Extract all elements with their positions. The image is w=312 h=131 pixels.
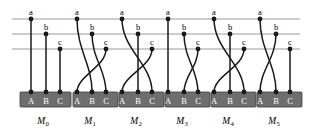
output-node-B-module-4 bbox=[228, 90, 233, 95]
output-label-B-module-4: B bbox=[227, 96, 233, 106]
input-label-a-module-4: a bbox=[212, 7, 216, 17]
module-caption-subscript-1: 1 bbox=[92, 120, 95, 127]
input-label-c-module-4: c bbox=[242, 37, 246, 47]
input-node-b-module-3 bbox=[182, 32, 187, 37]
input-node-a-module-2 bbox=[120, 17, 125, 22]
output-bar-4 bbox=[211, 92, 256, 107]
input-node-b-module-0 bbox=[44, 32, 49, 37]
output-label-B-module-2: B bbox=[135, 96, 141, 106]
input-node-a-module-5 bbox=[258, 17, 263, 22]
input-node-a-module-1 bbox=[75, 17, 80, 22]
output-label-C-module-3: C bbox=[195, 96, 201, 106]
module-caption-subscript-3: 3 bbox=[184, 120, 188, 127]
output-label-B-module-1: B bbox=[89, 96, 95, 106]
module-caption-1: M1 bbox=[83, 116, 96, 127]
module-caption-0: M0 bbox=[36, 116, 49, 127]
output-node-A-module-5 bbox=[258, 90, 263, 95]
output-node-A-module-1 bbox=[75, 90, 80, 95]
output-node-C-module-1 bbox=[104, 90, 109, 95]
input-node-b-module-5 bbox=[274, 32, 279, 37]
output-bar-3 bbox=[165, 92, 210, 107]
input-label-c-module-0: c bbox=[58, 37, 62, 47]
wire-group bbox=[31, 19, 290, 92]
output-label-A-module-3: A bbox=[165, 96, 172, 106]
module-caption-subscript-0: 0 bbox=[45, 120, 49, 127]
output-node-C-module-0 bbox=[58, 90, 63, 95]
input-node-a-module-4 bbox=[212, 17, 217, 22]
output-label-C-module-1: C bbox=[103, 96, 109, 106]
output-label-C-module-0: C bbox=[57, 96, 63, 106]
terminal-node-group bbox=[29, 17, 293, 95]
output-node-A-module-3 bbox=[166, 90, 171, 95]
input-label-a-module-5: a bbox=[258, 7, 262, 17]
output-node-A-module-0 bbox=[29, 90, 34, 95]
module-caption-2: M2 bbox=[129, 116, 142, 127]
input-label-c-module-1: c bbox=[104, 37, 108, 47]
wire-b-to-A-module-5 bbox=[260, 34, 276, 92]
output-label-A-module-1: A bbox=[74, 96, 81, 106]
output-node-B-module-5 bbox=[274, 90, 279, 95]
input-label-c-module-2: c bbox=[150, 37, 154, 47]
input-label-a-module-1: a bbox=[75, 7, 79, 17]
input-node-c-module-1 bbox=[104, 47, 109, 52]
output-node-A-module-2 bbox=[120, 90, 125, 95]
output-label-A-module-4: A bbox=[211, 96, 218, 106]
output-label-B-module-5: B bbox=[273, 96, 279, 106]
output-label-C-module-5: C bbox=[287, 96, 293, 106]
module-label-group: M0M1M2M3M4M5 bbox=[36, 116, 280, 127]
output-label-B-module-0: B bbox=[43, 96, 49, 106]
output-node-C-module-5 bbox=[288, 90, 293, 95]
input-label-group: abcabcabcabcabcabc bbox=[29, 7, 292, 47]
output-node-B-module-2 bbox=[136, 90, 141, 95]
output-node-C-module-4 bbox=[242, 90, 247, 95]
permutation-modules-figure: abcabcabcabcabcabc ABCABCABCABCABCABC M0… bbox=[0, 0, 312, 131]
output-label-C-module-2: C bbox=[149, 96, 155, 106]
input-node-c-module-3 bbox=[196, 47, 201, 52]
output-bar-2 bbox=[119, 92, 164, 107]
input-label-b-module-3: b bbox=[182, 22, 186, 32]
module-caption-3: M3 bbox=[175, 116, 188, 127]
module-caption-4: M4 bbox=[221, 116, 234, 127]
output-label-A-module-5: A bbox=[257, 96, 264, 106]
output-node-B-module-0 bbox=[44, 90, 49, 95]
input-label-a-module-2: a bbox=[120, 7, 124, 17]
input-label-b-module-5: b bbox=[274, 22, 278, 32]
input-node-b-module-2 bbox=[136, 32, 141, 37]
input-node-a-module-3 bbox=[166, 17, 171, 22]
output-label-C-module-4: C bbox=[241, 96, 247, 106]
input-label-c-module-3: c bbox=[196, 37, 200, 47]
output-node-C-module-3 bbox=[196, 90, 201, 95]
input-node-b-module-4 bbox=[228, 32, 233, 37]
module-caption-subscript-5: 5 bbox=[276, 120, 280, 127]
input-node-c-module-4 bbox=[242, 47, 247, 52]
input-label-b-module-2: b bbox=[136, 22, 140, 32]
input-label-b-module-4: b bbox=[228, 22, 232, 32]
output-label-A-module-2: A bbox=[119, 96, 126, 106]
wire-c-to-B-module-3 bbox=[184, 49, 198, 92]
input-node-c-module-5 bbox=[288, 47, 293, 52]
input-node-b-module-1 bbox=[90, 32, 95, 37]
output-node-A-module-4 bbox=[212, 90, 217, 95]
output-node-B-module-1 bbox=[90, 90, 95, 95]
output-label-B-module-3: B bbox=[181, 96, 187, 106]
output-bar-5 bbox=[257, 92, 302, 107]
diagram-canvas: abcabcabcabcabcabc ABCABCABCABCABCABC M0… bbox=[0, 0, 312, 131]
input-label-b-module-1: b bbox=[90, 22, 94, 32]
gridline-group bbox=[12, 19, 300, 49]
input-node-c-module-2 bbox=[150, 47, 155, 52]
input-label-a-module-0: a bbox=[29, 7, 33, 17]
output-node-B-module-3 bbox=[182, 90, 187, 95]
module-caption-subscript-2: 2 bbox=[138, 120, 142, 127]
input-label-a-module-3: a bbox=[166, 7, 170, 17]
input-label-c-module-5: c bbox=[288, 37, 292, 47]
input-node-c-module-0 bbox=[58, 47, 63, 52]
input-label-b-module-0: b bbox=[44, 22, 48, 32]
module-caption-5: M5 bbox=[267, 116, 280, 127]
module-caption-subscript-4: 4 bbox=[230, 120, 234, 127]
input-node-a-module-0 bbox=[29, 17, 34, 22]
output-node-C-module-2 bbox=[150, 90, 155, 95]
output-label-A-module-0: A bbox=[28, 96, 35, 106]
